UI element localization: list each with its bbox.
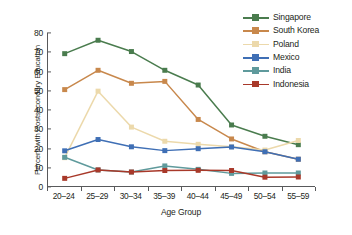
data-point-marker [96,89,101,94]
data-point-marker [229,123,234,128]
legend-swatch-icon [243,26,269,35]
x-tick-mark [81,187,82,191]
legend-swatch-icon [243,80,269,89]
x-tick-mark [148,187,149,191]
data-point-marker [96,38,101,43]
data-point-marker [62,87,67,92]
legend-label: India [273,66,291,75]
legend-item-indonesia[interactable]: Indonesia [243,77,351,90]
legend-item-south-korea[interactable]: South Korea [243,24,351,37]
data-point-marker [129,170,134,175]
x-tick-mark [181,187,182,191]
data-point-marker [262,149,267,154]
data-point-marker [296,175,301,180]
data-point-marker [262,134,267,139]
legend-item-singapore[interactable]: Singapore [243,11,351,24]
y-tick-label: 0 [23,183,43,192]
x-tick-mark [114,187,115,191]
y-tick-label: 30 [23,125,43,134]
y-tick-label: 40 [23,106,43,115]
data-point-marker [96,68,101,73]
legend-swatch-icon [243,13,269,22]
data-point-marker [196,168,201,173]
data-point-marker [62,148,67,153]
legend-label: Mexico [273,53,299,62]
chart-legend: SingaporeSouth KoreaPolandMexicoIndiaInd… [243,11,351,91]
x-tick-mark [47,187,48,191]
series-mexico [62,137,301,162]
data-point-marker [162,163,167,168]
data-point-marker [129,125,134,130]
legend-item-mexico[interactable]: Mexico [243,51,351,64]
data-point-marker [196,83,201,88]
data-point-marker [296,138,301,143]
legend-swatch-icon [243,53,269,62]
data-point-marker [62,176,67,181]
y-tick-label: 20 [23,144,43,153]
legend-label: Poland [273,40,299,49]
x-axis-title: Age Group [47,207,315,217]
data-point-marker [229,145,234,150]
data-point-marker [229,136,234,141]
line-chart: Percent with Postsecondary Education 010… [0,0,352,235]
data-point-marker [162,79,167,84]
data-point-marker [162,148,167,153]
data-point-marker [196,142,201,147]
x-tick-mark [282,187,283,191]
data-point-marker [62,155,67,160]
data-point-marker [162,139,167,144]
legend-swatch-icon [243,66,269,75]
data-point-marker [229,168,234,173]
x-tick-mark [215,187,216,191]
data-point-marker [129,49,134,54]
data-point-marker [129,144,134,149]
data-point-marker [196,117,201,122]
y-axis-title-container: Percent with Postsecondary Education [8,33,22,187]
x-tick-label: 55–59 [278,192,318,201]
series-india [62,155,301,176]
data-point-marker [162,68,167,73]
data-point-marker [296,157,301,162]
x-tick-mark [315,187,316,191]
x-tick-mark [248,187,249,191]
legend-label: South Korea [273,26,319,35]
data-point-marker [129,81,134,86]
legend-item-india[interactable]: India [243,64,351,77]
data-point-marker [96,137,101,142]
legend-swatch-icon [243,40,269,49]
legend-label: Indonesia [273,80,309,89]
y-tick-label: 70 [23,48,43,57]
data-point-marker [196,146,201,151]
legend-label: Singapore [273,13,311,22]
y-tick-label: 10 [23,164,43,173]
data-point-marker [162,168,167,173]
y-tick-label: 60 [23,67,43,76]
data-point-marker [96,167,101,172]
legend-item-poland[interactable]: Poland [243,38,351,51]
y-tick-label: 80 [23,29,43,38]
data-point-marker [62,51,67,56]
y-tick-label: 50 [23,87,43,96]
data-point-marker [262,175,267,180]
